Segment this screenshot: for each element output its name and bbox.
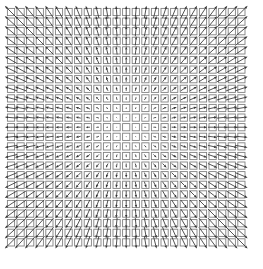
vector-arrow-shaft	[69, 118, 72, 119]
vector-arrow-shaft	[190, 136, 194, 137]
vector-arrow-shaft	[117, 191, 118, 195]
vector-arrow-shaft	[117, 182, 118, 185]
quiver-plot-figure	[0, 0, 263, 269]
vector-arrow-shaft	[135, 70, 136, 73]
vector-arrow-shaft	[190, 118, 194, 119]
vector-arrow-shaft	[59, 136, 63, 137]
quiver-plot-canvas	[0, 0, 263, 269]
vector-arrow-shaft	[117, 70, 118, 73]
vector-arrow-shaft	[135, 191, 136, 195]
vector-arrow-shaft	[59, 118, 63, 119]
vector-arrow-shaft	[135, 60, 136, 64]
vector-arrow-shaft	[117, 60, 118, 64]
vector-arrow-shaft	[135, 182, 136, 185]
vector-arrow-shaft	[181, 118, 184, 119]
vector-arrow-shaft	[181, 136, 184, 137]
vector-arrow-shaft	[69, 136, 72, 137]
